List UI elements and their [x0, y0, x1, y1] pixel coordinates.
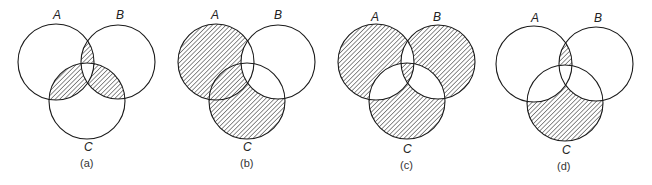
panel-d: A B C (d): [478, 2, 638, 185]
panel-b: A B C (b): [160, 0, 320, 185]
label-b: B: [274, 8, 282, 22]
caption-d: (d): [557, 160, 570, 172]
caption-c: (c): [400, 159, 413, 171]
panel-c: A B C (c): [320, 0, 480, 185]
label-b: B: [116, 8, 124, 22]
label-a: A: [52, 8, 61, 22]
label-c: C: [562, 143, 571, 157]
hatched-region-c: [320, 0, 480, 185]
label-b: B: [433, 10, 441, 24]
caption-b: (b): [240, 157, 253, 169]
label-c: C: [243, 140, 252, 154]
caption-a: (a): [80, 157, 93, 169]
venn-diagram-figure: A B C (a) A B C (b) A B: [0, 0, 652, 185]
label-b: B: [594, 11, 602, 25]
panel-a: A B C (a): [0, 0, 160, 185]
label-a: A: [530, 11, 539, 25]
label-a: A: [370, 10, 379, 24]
label-c: C: [84, 140, 93, 154]
label-a: A: [210, 8, 219, 22]
label-c: C: [403, 142, 412, 156]
